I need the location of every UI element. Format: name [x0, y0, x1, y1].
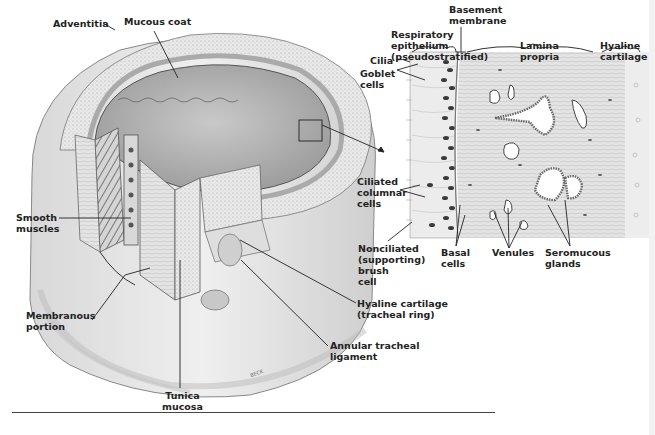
- label-adventitia: Adventitia: [53, 18, 109, 29]
- label-basal-cells: Basal cells: [441, 247, 470, 269]
- label-lamina-propria: Lamina propria: [520, 40, 559, 62]
- epithelium: [410, 52, 458, 238]
- page-edge: [649, 0, 655, 435]
- label-respiratory-epithelium: Respiratory epithelium (pseudostratified…: [391, 29, 488, 62]
- label-ciliated-columnar-cells: Ciliated columnar cells: [357, 176, 407, 209]
- label-mucous-coat: Mucous coat: [124, 16, 191, 27]
- label-membranous-portion: Membranous portion: [26, 310, 95, 332]
- label-seromucous-glands: Seromucous glands: [545, 247, 611, 269]
- label-cilia: Cilia: [370, 55, 393, 66]
- trachea-3d-drawing: [30, 33, 375, 397]
- label-basement-membrane: Basement membrane: [449, 4, 506, 26]
- label-tunica-mucosa: Tunica mucosa: [162, 390, 203, 412]
- bottom-rule: [12, 412, 495, 413]
- histology-inset: [406, 52, 650, 238]
- label-venules: Venules: [492, 247, 534, 258]
- label-nonciliated-brush-cell: Nonciliated (supporting) brush cell: [358, 243, 425, 287]
- label-smooth-muscles: Smooth muscles: [16, 212, 59, 234]
- label-hyaline-cartilage-ring: Hyaline cartilage (tracheal ring): [357, 298, 448, 320]
- hyaline-cartilage-strip: [625, 52, 650, 238]
- label-goblet-cells: Goblet cells: [360, 68, 395, 90]
- label-hyaline-cartilage: Hyaline cartilage: [600, 40, 647, 62]
- lamina-propria: [457, 52, 625, 238]
- label-annular-tracheal-ligament: Annular tracheal ligament: [330, 340, 419, 362]
- illustration: [0, 0, 655, 435]
